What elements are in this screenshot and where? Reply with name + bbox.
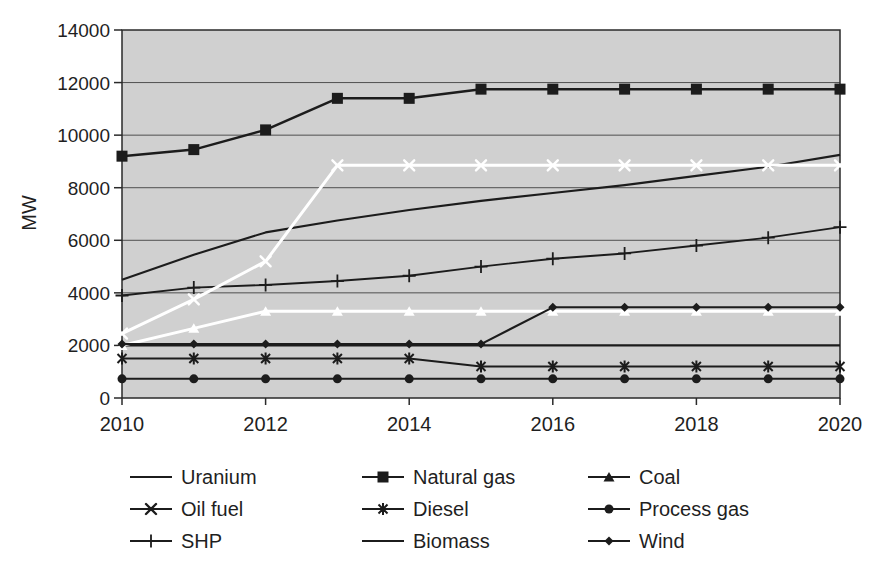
legend-label-natural-gas: Natural gas [413, 466, 515, 489]
y-axis-label-14000: 14000 [57, 20, 110, 41]
y-axis-label-2000: 2000 [68, 335, 110, 356]
legend-label-oil-fuel: Oil fuel [181, 498, 243, 521]
legend-marker-uranium [128, 468, 174, 486]
y-axis-label-10000: 10000 [57, 125, 110, 146]
legend-item-diesel: Diesel [360, 493, 586, 525]
legend-label-process-gas: Process gas [639, 498, 749, 521]
legend-marker-biomass [360, 532, 406, 550]
legend-marker-wind [586, 532, 632, 550]
x-axis-label-2016: 2016 [531, 413, 576, 435]
legend-item-biomass: Biomass [360, 525, 586, 557]
x-axis-label-2012: 2012 [243, 413, 288, 435]
legend-item-oil-fuel: Oil fuel [128, 493, 360, 525]
y-axis-label-8000: 8000 [68, 178, 110, 199]
x-axis-label-2018: 2018 [674, 413, 719, 435]
y-axis-label-6000: 6000 [68, 230, 110, 251]
chart-legend: UraniumOil fuelSHPNatural gasDieselBioma… [128, 461, 749, 557]
y-axis-label-4000: 4000 [68, 283, 110, 304]
legend-label-coal: Coal [639, 466, 680, 489]
figure-page: MW 0200040006000800010000120001400020102… [0, 0, 878, 567]
legend-marker-natural-gas [360, 468, 406, 486]
legend-item-coal: Coal [586, 461, 749, 493]
legend-label-diesel: Diesel [413, 498, 469, 521]
y-axis-title: MW [18, 195, 40, 231]
legend-marker-diesel [360, 500, 406, 518]
legend-item-uranium: Uranium [128, 461, 360, 493]
legend-marker-oil-fuel [128, 500, 174, 518]
y-axis-label-12000: 12000 [57, 73, 110, 94]
legend-marker-coal [586, 468, 632, 486]
legend-marker-shp [128, 532, 174, 550]
legend-item-shp: SHP [128, 525, 360, 557]
x-axis-label-2010: 2010 [100, 413, 145, 435]
legend-item-process-gas: Process gas [586, 493, 749, 525]
legend-item-wind: Wind [586, 525, 749, 557]
x-axis-label-2014: 2014 [387, 413, 432, 435]
capacity-line-chart: MW 0200040006000800010000120001400020102… [0, 0, 878, 452]
legend-label-wind: Wind [639, 530, 685, 553]
legend-marker-process-gas [586, 500, 632, 518]
legend-label-biomass: Biomass [413, 530, 490, 553]
y-axis-label-0: 0 [99, 388, 110, 409]
legend-item-natural-gas: Natural gas [360, 461, 586, 493]
legend-label-shp: SHP [181, 530, 222, 553]
legend-label-uranium: Uranium [181, 466, 257, 489]
x-axis-label-2020: 2020 [818, 413, 863, 435]
